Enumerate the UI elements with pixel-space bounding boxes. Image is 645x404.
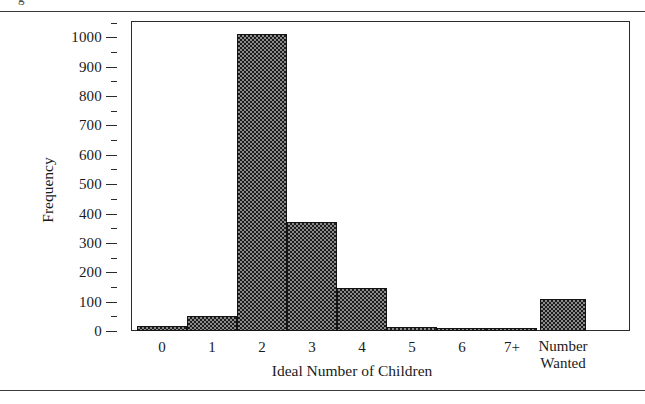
y-tick-major-200 [106, 272, 117, 273]
x-tick-label-7: 7+ [504, 339, 520, 356]
y-tick-minor-850 [111, 81, 117, 82]
figure-bottom-rule [0, 390, 645, 391]
y-tick-label-100: 100 [79, 293, 102, 310]
chart-plot-area [132, 22, 629, 331]
y-axis-title: Frequency [39, 157, 57, 222]
y-tick-label-300: 300 [79, 234, 102, 251]
x-tick-label-1: 1 [208, 339, 216, 356]
y-tick-major-900 [106, 67, 117, 68]
x-axis: Ideal Number of Children 01234567+Number… [0, 331, 645, 404]
x-axis-title: Ideal Number of Children [272, 362, 433, 380]
y-tick-minor-350 [111, 228, 117, 229]
x-tick-label-line1: 6 [458, 339, 466, 356]
y-tick-major-100 [106, 302, 117, 303]
y-tick-major-500 [106, 184, 117, 185]
x-tick-label-8: NumberWanted [538, 338, 587, 372]
x-tick-label-line1: 5 [408, 339, 416, 356]
y-tick-label-1000: 1000 [71, 29, 102, 46]
y-tick-minor-550 [111, 169, 117, 170]
x-tick-label-line1: 4 [358, 339, 366, 356]
x-tick-label-3: 3 [308, 339, 316, 356]
x-tick-label-line1: 2 [258, 339, 266, 356]
y-tick-major-600 [106, 155, 117, 156]
y-tick-minor-150 [111, 287, 117, 288]
y-tick-minor-50 [111, 316, 117, 317]
x-tick-label-line1: 3 [308, 339, 316, 356]
y-tick-major-1000 [106, 37, 117, 38]
y-tick-minor-950 [111, 52, 117, 53]
bar-3 [287, 222, 337, 331]
y-tick-minor-1050 [111, 23, 117, 24]
bar-1 [187, 316, 237, 331]
x-tick-label-2: 2 [258, 339, 266, 356]
y-tick-major-300 [106, 243, 117, 244]
y-tick-label-800: 800 [79, 88, 102, 105]
x-tick-label-line1: Number [538, 338, 587, 355]
y-tick-label-900: 900 [79, 58, 102, 75]
y-tick-major-400 [106, 214, 117, 215]
x-tick-label-0: 0 [158, 339, 166, 356]
x-tick-label-4: 4 [358, 339, 366, 356]
x-tick-label-line2: Wanted [538, 355, 587, 372]
y-tick-minor-750 [111, 111, 117, 112]
y-tick-label-700: 700 [79, 117, 102, 134]
y-tick-major-800 [106, 96, 117, 97]
x-tick-label-line1: 7+ [504, 339, 520, 356]
y-tick-minor-450 [111, 199, 117, 200]
bar-2 [237, 34, 287, 331]
y-tick-minor-650 [111, 140, 117, 141]
x-tick-label-line1: 0 [158, 339, 166, 356]
x-tick-label-5: 5 [408, 339, 416, 356]
y-tick-label-600: 600 [79, 146, 102, 163]
y-tick-label-200: 200 [79, 264, 102, 281]
x-tick-label-line1: 1 [208, 339, 216, 356]
bar-number [540, 299, 586, 331]
y-tick-label-400: 400 [79, 205, 102, 222]
x-tick-label-6: 6 [458, 339, 466, 356]
y-tick-label-500: 500 [79, 176, 102, 193]
bar-4 [337, 288, 387, 331]
y-tick-major-700 [106, 125, 117, 126]
y-tick-minor-250 [111, 258, 117, 259]
